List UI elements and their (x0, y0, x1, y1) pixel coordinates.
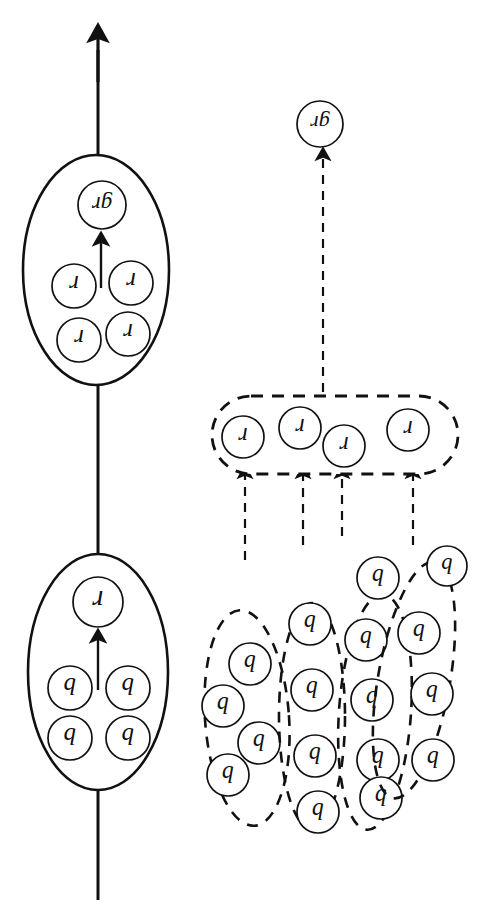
token-label: r (123, 319, 133, 347)
token-label: r (92, 585, 104, 617)
token-label: r (74, 325, 84, 353)
solid-group-r[interactable]: rrrrgr (23, 155, 169, 385)
dashed-cluster-1[interactable]: bbbb (198, 607, 297, 828)
token-label: b (64, 723, 77, 751)
capsule-member-r[interactable]: r (387, 409, 429, 451)
token-label: b (253, 729, 265, 756)
token-label: b (426, 680, 438, 707)
token-label: b (413, 619, 425, 646)
token-label: r (403, 416, 413, 443)
cluster-member-b[interactable]: b (289, 603, 331, 645)
group-member-b[interactable]: b (48, 666, 92, 710)
token-label: b (304, 610, 316, 637)
cluster-member-b[interactable]: b (351, 679, 393, 721)
group-member-r[interactable]: r (109, 261, 153, 305)
token-label: b (427, 746, 439, 773)
token-label: b (306, 676, 318, 703)
capsule-member-r[interactable]: r (279, 407, 321, 449)
token-label: gr (92, 192, 112, 217)
capsule-member-r[interactable]: r (323, 425, 365, 467)
token-label: b (372, 564, 384, 591)
cluster-member-b[interactable]: b (297, 791, 339, 833)
token-label: b (222, 761, 234, 788)
token-label: b (360, 626, 372, 653)
token-label: b (122, 723, 135, 751)
token-label: b (122, 673, 135, 701)
token-label: r (238, 423, 248, 450)
dashed-capsule-r[interactable]: rrrr (212, 396, 458, 474)
dashed-output-gr[interactable]: gr (297, 101, 343, 147)
token-label: r (339, 432, 349, 459)
token-label: b (64, 673, 77, 701)
cluster-member-b[interactable]: b (238, 722, 280, 764)
cluster-member-b[interactable]: b (398, 612, 440, 654)
token-label: b (312, 798, 324, 825)
group-member-r[interactable]: r (57, 318, 101, 362)
group-member-b[interactable]: b (106, 666, 150, 710)
group-output-gr[interactable]: gr (78, 181, 126, 229)
token-label: b (217, 692, 229, 719)
group-member-b[interactable]: b (48, 716, 92, 760)
cluster-member-b[interactable]: b (207, 754, 249, 796)
group-member-r[interactable]: r (106, 312, 150, 356)
cluster-member-b[interactable]: b (357, 557, 399, 599)
cluster-member-b[interactable]: b (412, 739, 454, 781)
diagram-svg: bbbbrrrrrgr bbbbbbbbbbbbbbbbbrrrrgr (0, 0, 497, 919)
token-label: gr (310, 111, 330, 135)
cluster-member-b[interactable]: b (291, 669, 333, 711)
cluster-member-b[interactable]: b (202, 685, 244, 727)
group-output-r[interactable]: r (73, 577, 123, 627)
group-member-r[interactable]: r (52, 264, 96, 308)
token-label: b (441, 553, 453, 578)
diagram-canvas: bbbbrrrrrgr bbbbbbbbbbbbbbbbbrrrrgr (0, 0, 497, 919)
cluster-member-b[interactable]: b (294, 735, 336, 777)
token-label: b (309, 742, 321, 769)
cluster-member-b[interactable]: b (229, 643, 271, 685)
token-label: r (295, 414, 305, 441)
token-label: r (126, 268, 136, 296)
left-solid-chain-layer: bbbbrrrrrgr (23, 36, 169, 900)
cluster-member-b[interactable]: b (345, 619, 387, 661)
capsule-member-r[interactable]: r (222, 416, 264, 458)
token-label: b (244, 650, 256, 677)
cluster-member-b[interactable]: b (411, 673, 453, 715)
right-dashed-chain-layer: bbbbbbbbbbbbbbbbbrrrrgr (198, 101, 471, 833)
solid-group-b[interactable]: bbbbr (28, 554, 168, 790)
isolated-node-b[interactable]: b (427, 546, 467, 586)
group-member-b[interactable]: b (106, 716, 150, 760)
token-label: r (69, 271, 79, 299)
